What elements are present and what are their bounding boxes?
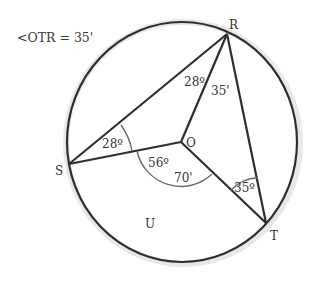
- point-label-U: U: [145, 217, 155, 231]
- point-label-R: R: [229, 18, 239, 32]
- angle-label-OSR: 28º: [102, 137, 123, 151]
- circle-geometry-diagram: <OTR = 35' R S T O U 28º 35' 28º 56º 70'…: [0, 0, 316, 289]
- angle-label-SOU: 56º: [148, 156, 169, 170]
- angle-label-OTR: 35º: [234, 181, 255, 195]
- given-statement: <OTR = 35': [17, 30, 93, 45]
- point-label-O: O: [186, 136, 196, 150]
- point-label-T: T: [270, 229, 278, 243]
- angle-label-ORT: 35': [211, 84, 230, 98]
- point-label-S: S: [55, 164, 63, 178]
- angle-label-UOT: 70': [174, 171, 193, 185]
- chord-RS: [69, 34, 227, 164]
- angle-label-ORS: 28º: [184, 75, 205, 89]
